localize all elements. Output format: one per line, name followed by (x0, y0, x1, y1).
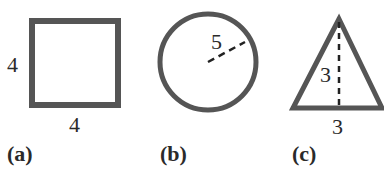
triangle-shape (293, 19, 382, 108)
square-bottom-label: 4 (69, 114, 80, 136)
triangle-height-label: 3 (320, 64, 331, 86)
circle-radius-label: 5 (211, 31, 222, 53)
caption-a: (a) (7, 143, 33, 165)
caption-c: (c) (292, 143, 316, 165)
shapes-canvas (0, 0, 384, 186)
square-left-label: 4 (7, 54, 18, 76)
square-shape (32, 21, 118, 105)
caption-b: (b) (160, 143, 187, 165)
triangle-base-label: 3 (332, 116, 343, 138)
